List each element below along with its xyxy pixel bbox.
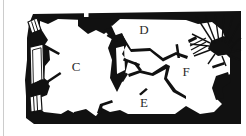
room-label-f: F bbox=[182, 64, 189, 79]
collapse-west-arm bbox=[188, 36, 197, 43]
floor-plan-figure: C D E F bbox=[0, 0, 246, 136]
west-wall-tie-lower bbox=[45, 72, 61, 84]
room-e-north-wall bbox=[128, 64, 186, 99]
south-wall-mound bbox=[70, 109, 100, 124]
room-label-d: D bbox=[139, 22, 148, 37]
wall-poche-group bbox=[25, 11, 241, 124]
north-wall-niche-marker bbox=[84, 13, 89, 17]
east-wall-hook bbox=[212, 62, 225, 69]
floor-plan-drawing: C D E F bbox=[0, 0, 246, 136]
room-label-e: E bbox=[140, 95, 148, 110]
perimeter-wall bbox=[25, 11, 241, 124]
cross-wall-riser bbox=[176, 44, 181, 58]
south-wall-spur-arm bbox=[100, 100, 113, 106]
room-label-c: C bbox=[72, 59, 81, 74]
west-window-lower bbox=[30, 94, 42, 112]
